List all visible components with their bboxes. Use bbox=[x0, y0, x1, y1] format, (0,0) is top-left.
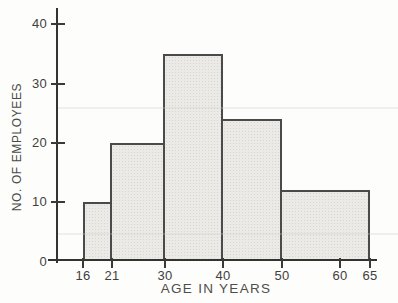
x-axis-title: AGE IN YEARS bbox=[136, 281, 296, 296]
x-axis-tick bbox=[369, 258, 371, 268]
y-axis-tick bbox=[51, 23, 65, 25]
y-tick-label: 20 bbox=[19, 135, 47, 151]
x-axis-tick bbox=[111, 258, 113, 268]
histogram-bar bbox=[221, 119, 282, 261]
y-axis-tick bbox=[51, 142, 65, 144]
x-tick-label: 21 bbox=[99, 268, 125, 284]
y-tick-label: 10 bbox=[19, 194, 47, 210]
y-axis-tick bbox=[51, 201, 65, 203]
x-tick-label: 16 bbox=[70, 268, 96, 284]
histogram-bar bbox=[110, 143, 165, 261]
x-axis-line bbox=[48, 259, 377, 261]
y-tick-label: 0 bbox=[19, 254, 47, 270]
x-tick-label: 60 bbox=[327, 268, 353, 284]
x-axis-tick bbox=[164, 258, 166, 268]
histogram-figure: NO. OF EMPLOYEES 01020304016213040506065… bbox=[0, 0, 398, 303]
histogram-bar bbox=[83, 202, 112, 261]
x-axis-tick bbox=[339, 258, 341, 268]
y-axis-tick bbox=[51, 83, 65, 85]
scan-streak bbox=[58, 107, 398, 109]
x-tick-label: 65 bbox=[357, 268, 383, 284]
x-axis-tick bbox=[222, 258, 224, 268]
x-axis-tick bbox=[82, 258, 84, 268]
plot-area: 01020304016213040506065 bbox=[0, 0, 398, 303]
histogram-bar bbox=[163, 54, 223, 261]
x-axis-tick bbox=[281, 258, 283, 268]
histogram-bar bbox=[280, 190, 370, 261]
y-tick-label: 40 bbox=[19, 16, 47, 32]
y-tick-label: 30 bbox=[19, 76, 47, 92]
y-axis-line bbox=[56, 8, 58, 263]
